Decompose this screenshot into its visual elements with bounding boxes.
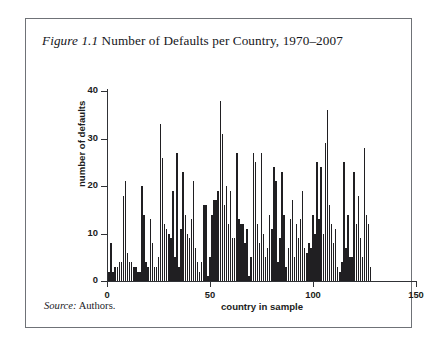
bar-series: [107, 91, 416, 281]
x-tick-50: [210, 282, 211, 287]
y-tick-label-30: 30: [88, 132, 98, 143]
source-note: Source: Authors.: [44, 300, 115, 311]
y-tick-label-10: 10: [88, 227, 98, 238]
figure-title-text: Number of Defaults per Country, 1970–200…: [98, 33, 343, 48]
x-tick-0: [107, 282, 108, 287]
y-tick-label-40: 40: [88, 84, 98, 95]
figure-number: Figure 1.1: [42, 33, 98, 48]
figure-caption: Figure 1.1 Number of Defaults per Countr…: [42, 33, 343, 49]
bar: [176, 153, 177, 281]
x-tick-150: [416, 282, 417, 287]
bar: [370, 267, 371, 281]
x-axis-line: [106, 281, 417, 282]
bar: [246, 229, 247, 281]
bar: [205, 205, 206, 281]
x-tick-label-150: 150: [408, 289, 424, 300]
source-value: Authors.: [77, 300, 116, 311]
source-label: Source:: [44, 300, 77, 311]
x-tick-label-50: 50: [205, 289, 215, 300]
x-tick-label-0: 0: [104, 289, 109, 300]
y-axis-title: number of defaults: [76, 101, 87, 187]
y-tick-label-0: 0: [93, 274, 98, 285]
x-tick-label-100: 100: [305, 289, 321, 300]
figure-frame: Figure 1.1 Number of Defaults per Countr…: [25, 18, 412, 328]
x-axis-title: country in sample: [221, 301, 303, 312]
chart-plot-area: number of defaults country in sample 010…: [82, 71, 422, 301]
x-tick-100: [313, 282, 314, 287]
y-tick-label-20: 20: [88, 179, 98, 190]
